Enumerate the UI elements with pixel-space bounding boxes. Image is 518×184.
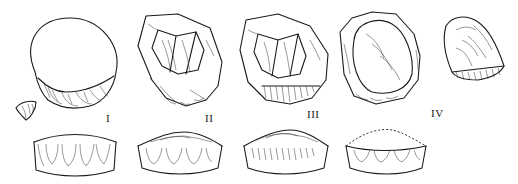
stage-4-side-view bbox=[346, 130, 426, 174]
stage-4-top-view bbox=[340, 12, 420, 104]
stage-label-4: IV bbox=[431, 107, 444, 119]
stage-label-1: I bbox=[106, 112, 110, 124]
stage-1-top-view bbox=[31, 18, 117, 108]
stage-2-side-view bbox=[138, 132, 222, 174]
stage-3-top-view bbox=[240, 14, 328, 104]
stage-label-2: II bbox=[205, 112, 213, 124]
figure-drawing bbox=[0, 0, 518, 184]
core-reduction-figure: I II III IV bbox=[0, 0, 518, 184]
stage-1-side-view bbox=[34, 135, 116, 177]
stage-4-small-core bbox=[444, 17, 504, 80]
stage-2-top-view bbox=[138, 14, 222, 106]
flake-drawing bbox=[16, 101, 36, 120]
stage-label-3: III bbox=[307, 108, 320, 120]
stage-3-side-view bbox=[244, 130, 328, 174]
